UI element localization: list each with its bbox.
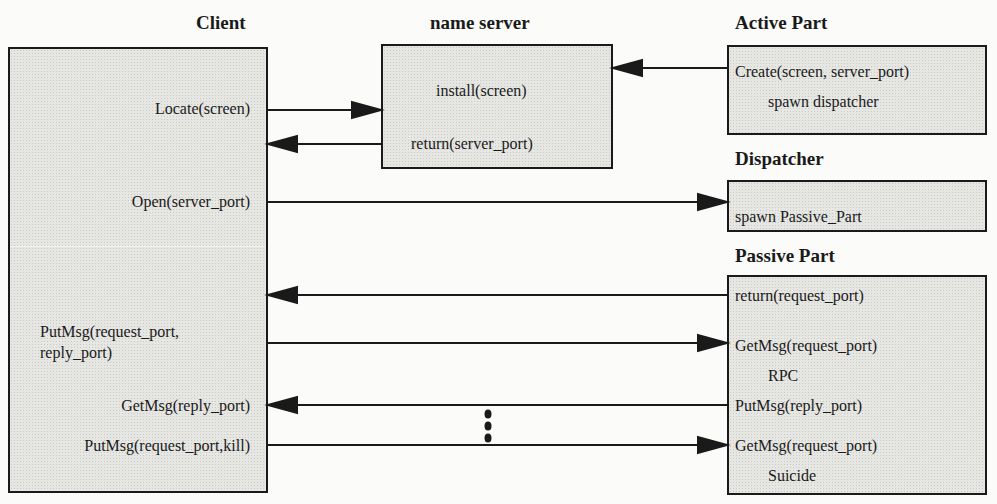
- ellipsis-icon: [485, 410, 492, 443]
- arrowhead-right-icon: [698, 335, 727, 351]
- arrowhead-left-icon: [268, 397, 297, 413]
- arrowhead-right-icon: [698, 437, 727, 453]
- arrowhead-left-icon: [268, 287, 297, 303]
- arrowhead-left-icon: [268, 136, 297, 152]
- message-arrows: [0, 0, 997, 504]
- arrowhead-right-icon: [698, 194, 727, 210]
- arrowhead-left-icon: [613, 60, 642, 76]
- arrowhead-right-icon: [352, 102, 381, 118]
